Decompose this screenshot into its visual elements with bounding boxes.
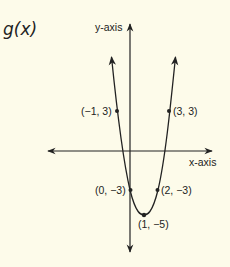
point-neg1-3 [115,109,119,113]
point-vertex-1-neg5 [142,213,146,217]
point-label: (0, −3) [95,184,126,196]
point-label: (1, −5) [138,218,169,230]
point-label: (3, 3) [173,105,198,117]
point-label: (2, −3) [161,184,192,196]
point-3-3 [167,109,171,113]
point-label: (−1, 3) [81,105,112,117]
point-2-neg3 [156,188,160,192]
graph: y-axis x-axis (−1, 3) (3, 3) (0, −3) (2,… [0,0,230,267]
x-axis-label: x-axis [189,156,216,168]
y-axis-label: y-axis [95,21,122,33]
point-0-neg3 [129,188,133,192]
